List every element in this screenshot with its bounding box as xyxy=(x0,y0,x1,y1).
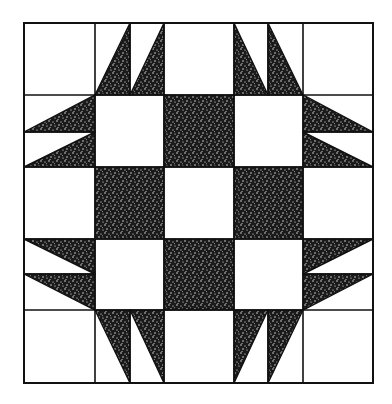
triangle-top-right-a xyxy=(234,23,268,95)
shaded-square-bottom-center xyxy=(164,239,234,310)
shaded-square-middle-left xyxy=(95,167,164,239)
triangle-top-left-b xyxy=(130,23,164,95)
triangle-top-left-a xyxy=(95,23,130,95)
triangle-right-top-b xyxy=(303,132,373,167)
quilt-border xyxy=(24,23,373,383)
triangle-bottom-left-b xyxy=(130,310,164,383)
triangle-top-right-b xyxy=(268,23,303,95)
triangle-left-bottom-b xyxy=(24,274,95,310)
triangle-left-bottom-a xyxy=(24,239,95,274)
triangle-bottom-left-a xyxy=(95,310,130,383)
triangle-right-top-a xyxy=(303,95,373,132)
triangle-left-top-a xyxy=(24,95,95,132)
quilt-block-diagram xyxy=(0,0,392,404)
triangle-right-bottom-b xyxy=(303,274,373,310)
triangle-bottom-right-b xyxy=(268,310,303,383)
shaded-square-middle-right xyxy=(234,167,303,239)
triangles xyxy=(24,23,373,383)
triangle-bottom-right-a xyxy=(234,310,268,383)
grid-lines xyxy=(24,23,373,383)
triangle-right-bottom-a xyxy=(303,239,373,274)
triangle-left-top-b xyxy=(24,132,95,167)
shaded-square-top-center xyxy=(164,95,234,167)
shaded-squares xyxy=(95,95,303,310)
